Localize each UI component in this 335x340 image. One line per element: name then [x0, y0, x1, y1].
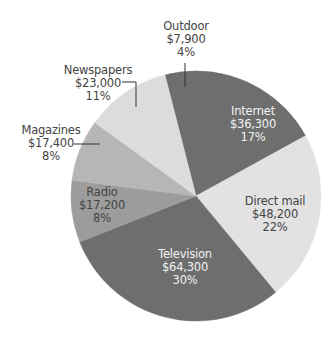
slice-label-magazines: Magazines $17,400 8%	[18, 124, 84, 163]
slice-label-internet: Internet $36,300 17%	[218, 105, 288, 144]
slice-label-radio: Radio $17,200 8%	[76, 186, 128, 225]
slice-label-newspapers: Newspapers $23,000 11%	[60, 64, 136, 103]
label-percent: 4%	[160, 46, 212, 59]
label-percent: 17%	[218, 131, 288, 144]
label-percent: 30%	[145, 274, 225, 287]
label-percent: 8%	[18, 150, 84, 163]
slice-label-direct-mail: Direct mail $48,200 22%	[235, 195, 315, 234]
label-percent: 22%	[235, 221, 315, 234]
label-percent: 8%	[76, 212, 128, 225]
slice-label-television: Television $64,300 30%	[145, 248, 225, 287]
label-percent: 11%	[60, 90, 136, 103]
slice-label-outdoor: Outdoor $7,900 4%	[160, 20, 212, 59]
